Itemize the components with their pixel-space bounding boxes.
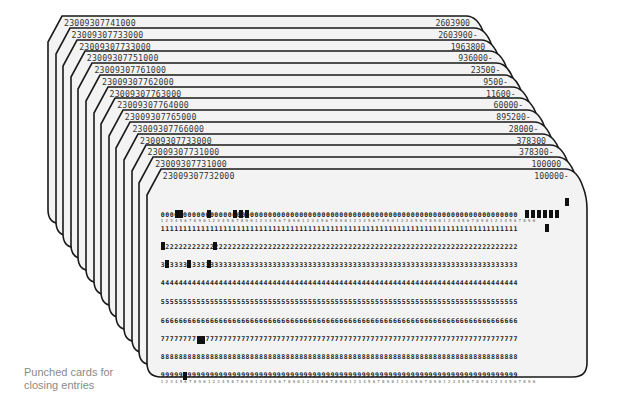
punch-row-8: 8888888888888888888888888888888888888888… bbox=[161, 353, 518, 361]
card-account-number: 23009307763000 bbox=[110, 89, 182, 99]
punched-hole bbox=[165, 260, 169, 268]
card-account-number: 23009307741000 bbox=[64, 18, 136, 28]
card-amount: 378300- bbox=[519, 147, 554, 157]
punch-row-4: 4444444444444444444444444444444444444444… bbox=[161, 279, 518, 287]
card-account-number: 23009307766000 bbox=[132, 124, 204, 134]
column-numbers-row: 1234567890123456789012345678901234567890… bbox=[161, 379, 538, 387]
card-amount: 11600- bbox=[486, 89, 516, 99]
punched-hole bbox=[179, 210, 183, 218]
punch-row-5: 5555555555555555555555555555555555555555… bbox=[161, 298, 518, 306]
card-account-number: 23009307765000 bbox=[125, 112, 197, 122]
card-account-number: 23009307733000 bbox=[79, 42, 151, 52]
caption-line-2: closing entries bbox=[24, 379, 113, 392]
punched-hole bbox=[233, 210, 237, 218]
column-numbers-row: 1234567890123456789012345678901234567890… bbox=[161, 218, 538, 226]
card-amount: 1963800 bbox=[451, 42, 486, 52]
card-amount: 60000- bbox=[494, 100, 524, 110]
punched-hole bbox=[545, 224, 549, 232]
punched-hole bbox=[555, 210, 559, 218]
punched-hole bbox=[161, 242, 165, 250]
card-account-number: 23009307733000 bbox=[72, 30, 144, 40]
card-amount: 23500- bbox=[471, 65, 501, 75]
punched-hole bbox=[207, 260, 211, 268]
caption-line-1: Punched cards for bbox=[24, 366, 113, 379]
punched-hole bbox=[525, 210, 529, 218]
punch-row-6: 6666666666666666666666666666666666666666… bbox=[161, 317, 518, 325]
punched-hole bbox=[207, 210, 211, 218]
punched-hole bbox=[183, 372, 187, 380]
punched-hole bbox=[187, 260, 191, 268]
front-punched-card: 23009307732000100000-0000000000000000000… bbox=[147, 169, 587, 377]
card-account-number: 23009307733000 bbox=[140, 136, 212, 146]
punched-card-stack: 2300930774100026039002300930773300026039… bbox=[0, 0, 624, 404]
card-account-number: 23009307732000 bbox=[163, 171, 235, 181]
punched-hole bbox=[531, 210, 535, 218]
card-amount: 895200- bbox=[496, 112, 531, 122]
punch-row-7: 7777777777777777777777777777777777777777… bbox=[161, 335, 518, 343]
card-amount: 28000- bbox=[509, 124, 539, 134]
punch-row-3: 3333333333333333333333333333333333333333… bbox=[161, 261, 518, 269]
card-account-number: 23009307762000 bbox=[102, 77, 174, 87]
punched-hole bbox=[239, 210, 243, 218]
punch-row-1: 1111111111111111111111111111111111111111… bbox=[161, 225, 518, 233]
card-amount: 2603900- bbox=[438, 30, 477, 40]
card-amount: 378300 bbox=[516, 136, 546, 146]
punch-row-9: 9999999999999999999999999999999999999999… bbox=[161, 371, 518, 379]
punched-hole bbox=[245, 210, 249, 218]
punched-hole bbox=[213, 242, 217, 250]
punched-hole bbox=[549, 210, 553, 218]
card-account-number: 23009307731000 bbox=[148, 147, 220, 157]
card-account-number: 23009307731000 bbox=[155, 159, 227, 169]
card-account-number: 23009307761000 bbox=[94, 65, 166, 75]
punched-hole bbox=[565, 198, 569, 206]
punched-hole bbox=[543, 210, 547, 218]
card-account-number: 23009307764000 bbox=[117, 100, 189, 110]
card-amount: 9500- bbox=[483, 77, 508, 87]
card-amount: 100000 bbox=[532, 159, 562, 169]
card-amount: 936000- bbox=[458, 53, 493, 63]
punched-hole bbox=[537, 210, 541, 218]
figure-caption: Punched cards for closing entries bbox=[24, 366, 113, 392]
card-amount: 100000- bbox=[534, 171, 569, 181]
card-account-number: 23009307751000 bbox=[87, 53, 159, 63]
card-amount: 2603900 bbox=[435, 18, 470, 28]
punch-grid: 0000000000000000000000000000000000000000… bbox=[161, 209, 571, 369]
punched-hole bbox=[201, 336, 205, 344]
